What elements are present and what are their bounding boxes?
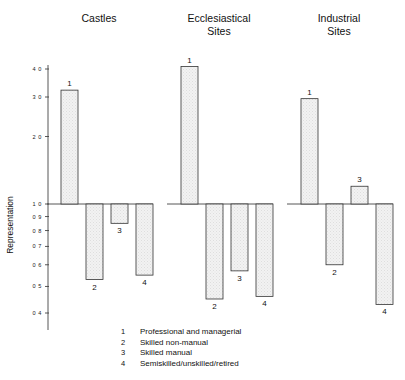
- legend-label: Semiskilled/unskilled/retired: [140, 359, 239, 368]
- legend-key: 4: [121, 359, 125, 368]
- y-axis-tick-label: 4 0: [32, 66, 42, 72]
- bar: [376, 204, 393, 304]
- panel-title: Ecclesiastical: [187, 12, 250, 24]
- bar-category-label: 4: [142, 278, 147, 287]
- y-axis-tick-label: 0 8: [32, 228, 42, 234]
- bar: [136, 204, 153, 275]
- panel-title: Sites: [327, 25, 350, 37]
- bar: [61, 90, 78, 204]
- legend-key: 1: [121, 327, 125, 336]
- y-axis-tick-label: 0 6: [32, 262, 42, 268]
- legend-key: 2: [121, 338, 125, 347]
- y-axis-tick-label: 3 0: [32, 94, 42, 100]
- chart-figure: CastlesEcclesiasticalSitesIndustrialSite…: [0, 0, 405, 380]
- panel-title: Castles: [81, 12, 116, 24]
- bar-category-label: 1: [187, 56, 192, 65]
- representation-bar-chart: CastlesEcclesiasticalSitesIndustrialSite…: [0, 0, 405, 380]
- bar-category-label: 2: [332, 268, 337, 277]
- bar: [181, 67, 198, 204]
- y-axis-tick-label: 2 0: [32, 134, 42, 140]
- bar: [256, 204, 273, 296]
- bar-category-label: 3: [237, 274, 242, 283]
- bar: [86, 204, 103, 280]
- bar-category-label: 3: [117, 226, 122, 235]
- bar-category-label: 2: [92, 283, 97, 292]
- panel-title: Sites: [207, 25, 230, 37]
- bar-category-label: 1: [307, 88, 312, 97]
- bar-category-label: 4: [262, 299, 267, 308]
- bar-category-label: 2: [212, 302, 217, 311]
- y-axis-tick-label: 0 9: [32, 214, 42, 220]
- legend-label: Skilled non-manual: [140, 338, 208, 347]
- legend-label: Professional and managerial: [140, 327, 242, 336]
- y-axis-tick-label: 0 7: [32, 243, 42, 249]
- y-axis-tick-label: 0 5: [32, 283, 42, 289]
- y-axis-tick-label: 1 0: [32, 201, 42, 207]
- bar: [111, 204, 128, 223]
- bar-category-label: 1: [67, 79, 72, 88]
- bar-category-label: 3: [357, 175, 362, 184]
- panel-title: Industrial: [318, 12, 361, 24]
- bar-category-label: 4: [382, 307, 387, 316]
- bar: [301, 99, 318, 204]
- bar: [206, 204, 223, 299]
- y-axis-tick-label: 0 4: [32, 310, 42, 316]
- bar: [351, 186, 368, 204]
- legend-key: 3: [121, 348, 125, 357]
- legend-label: Skilled manual: [140, 348, 192, 357]
- bar: [231, 204, 248, 271]
- bar: [326, 204, 343, 265]
- y-axis-title: Representation: [5, 196, 15, 254]
